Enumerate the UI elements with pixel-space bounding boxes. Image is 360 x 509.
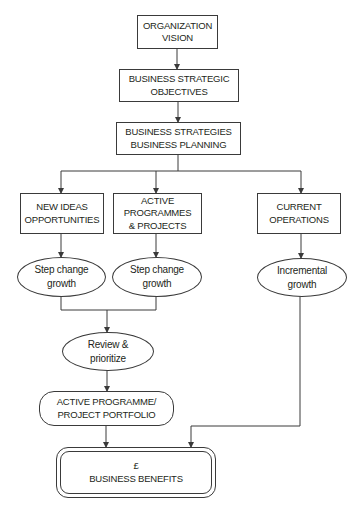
active-programme-portfolio-box: ACTIVE PROGRAMME/ PROJECT PORTFOLIO xyxy=(39,391,174,426)
node-label: BUSINESS STRATEGIES xyxy=(125,126,231,139)
business-benefits-box: £ BUSINESS BENEFITS xyxy=(56,447,216,498)
node-label: CURRENT xyxy=(276,201,321,214)
node-label: OBJECTIVES xyxy=(150,86,207,99)
organization-vision-box: ORGANIZATION VISION xyxy=(137,15,218,49)
node-label: OPERATIONS xyxy=(269,214,329,227)
business-strategic-objectives-box: BUSINESS STRATEGIC OBJECTIVES xyxy=(119,69,239,102)
business-strategies-planning-box: BUSINESS STRATEGIES BUSINESS PLANNING xyxy=(116,122,241,155)
node-label: BUSINESS STRATEGIC xyxy=(129,73,230,86)
node-label: VISION xyxy=(162,32,193,45)
node-label: OPPORTUNITIES xyxy=(25,214,100,227)
node-label: growth xyxy=(143,277,172,291)
node-label: Review & xyxy=(88,338,129,352)
node-label: PROJECT PORTFOLIO xyxy=(57,409,155,422)
node-label: ACTIVE xyxy=(141,195,174,208)
node-label: Step change xyxy=(130,263,184,277)
step-change-growth-ellipse-1: Step change growth xyxy=(17,257,106,297)
node-label: BUSINESS BENEFITS xyxy=(89,473,183,486)
node-label: growth xyxy=(47,277,76,291)
node-label: Incremental xyxy=(277,264,327,278)
node-label: prioritize xyxy=(90,352,126,366)
flowchart-diagram: ORGANIZATION VISION BUSINESS STRATEGIC O… xyxy=(0,0,360,509)
review-prioritize-ellipse: Review & prioritize xyxy=(62,332,154,371)
node-label: growth xyxy=(288,278,317,292)
node-label: ACTIVE PROGRAMME/ xyxy=(57,396,157,409)
business-benefits-inner-border: £ BUSINESS BENEFITS xyxy=(60,451,212,494)
node-label: Step change xyxy=(35,263,89,277)
current-operations-box: CURRENT OPERATIONS xyxy=(257,193,341,234)
active-programmes-projects-box: ACTIVE PROGRAMMES & PROJECTS xyxy=(113,193,202,234)
pound-sign-icon: £ xyxy=(133,460,138,473)
incremental-growth-ellipse: Incremental growth xyxy=(257,258,347,297)
new-ideas-opportunities-box: NEW IDEAS OPPORTUNITIES xyxy=(20,193,104,234)
node-label: ORGANIZATION xyxy=(143,20,212,33)
step-change-growth-ellipse-2: Step change growth xyxy=(112,257,202,297)
node-label: BUSINESS PLANNING xyxy=(131,139,227,152)
node-label: PROGRAMMES xyxy=(124,207,192,220)
node-label: NEW IDEAS xyxy=(36,201,88,214)
node-label: & PROJECTS xyxy=(129,220,187,233)
